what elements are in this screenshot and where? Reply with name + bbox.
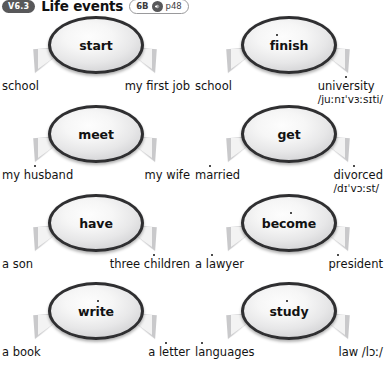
verb-label: meet (78, 127, 114, 142)
stress-dot: a (206, 168, 213, 182)
stress-dot: e (162, 345, 169, 359)
stress-dot: i (96, 304, 100, 319)
collocation-right: my first job (125, 80, 190, 93)
collocation-right-text: my first job (125, 79, 190, 93)
collocation-right: my wife (145, 169, 190, 182)
collocation-right: three children (110, 258, 190, 271)
verb-label: finish (270, 38, 309, 53)
speech-bubble: become (223, 194, 353, 256)
verb-label: start (79, 38, 113, 53)
stress-dot: o (286, 216, 295, 231)
verb-label: have (79, 216, 113, 231)
bubble-body: have (48, 194, 144, 252)
event-group: write a book a letter (0, 280, 192, 367)
collocation-left: languages (195, 346, 255, 359)
bubble-body: write (48, 282, 144, 340)
event-group: meet my husband my wife (0, 103, 192, 191)
bubble-body: become (241, 194, 337, 252)
collocation-labels: languages law /lɔː/ (193, 346, 385, 359)
event-group: become a lawyer president (193, 192, 385, 280)
speech-bubble: get (223, 105, 353, 167)
collocation-labels: school my first job (0, 80, 192, 93)
verb-label: get (277, 127, 300, 142)
collocation-right: law /lɔː/ (339, 346, 383, 359)
collocation-left: a book (2, 346, 41, 359)
stress-dot: h (150, 257, 157, 271)
speech-bubble: write (30, 282, 160, 344)
reference-page: p48 (166, 1, 182, 11)
event-group: get married divorced /dɪˈvɔːst/ (193, 103, 385, 191)
stress-dot: i (275, 38, 279, 53)
stress-dot: a (198, 345, 205, 359)
stress-dot: r (336, 257, 341, 271)
verb-label: write (78, 304, 114, 319)
collocation-right: university /juːnɪˈvɜːsɪti/ (318, 80, 383, 105)
stress-dot: e (342, 79, 349, 93)
collocation-left: school (2, 80, 39, 93)
collocation-left: my husband (2, 169, 73, 182)
collocation-right-text: a letter (148, 345, 190, 359)
collocation-right-text: law /lɔː/ (339, 345, 383, 359)
collocation-labels: school university /juːnɪˈvɜːsɪti/ (193, 80, 385, 105)
bubble-body: finish (241, 16, 337, 74)
life-events-grid: start school my first job finish school … (0, 14, 385, 367)
event-group: study languages law /lɔː/ (193, 280, 385, 367)
reference-level: 6B (136, 1, 148, 11)
collocation-right-text: my wife (145, 168, 190, 182)
collocation-right: president (329, 258, 383, 271)
collocation-labels: my husband my wife (0, 169, 192, 182)
unit-badge: V6.3 (2, 0, 35, 13)
collocation-right-text: university (318, 79, 375, 93)
speech-bubble: have (30, 194, 160, 256)
speech-bubble: meet (30, 105, 160, 167)
stress-dot: u (31, 168, 38, 182)
collocation-left: married (195, 169, 240, 182)
verb-label: become (262, 216, 316, 231)
collocation-right-text: divorced (333, 168, 383, 182)
stress-dot: u (283, 304, 292, 319)
collocation-right-text: three children (110, 257, 190, 271)
collocation-left: a lawyer (195, 258, 244, 271)
collocation-labels: a book a letter (0, 346, 192, 359)
collocation-right: a letter (148, 346, 190, 359)
event-group: have a son three children (0, 192, 192, 280)
page-title: Life events (41, 0, 123, 14)
event-group: start school my first job (0, 14, 192, 102)
collocation-right: divorced /dɪˈvɔːst/ (333, 169, 383, 194)
collocation-left: school (195, 80, 232, 93)
collocation-right-text: president (329, 257, 383, 271)
collocation-labels: a lawyer president (193, 258, 385, 271)
speaker-icon[interactable] (152, 1, 163, 12)
verb-label: study (270, 304, 309, 319)
reference-pill[interactable]: 6B p48 (129, 0, 189, 14)
stress-dot: a (209, 257, 216, 271)
page-header: V6.3 Life events 6B p48 (0, 0, 385, 15)
bubble-body: meet (48, 105, 144, 163)
speech-bubble: study (223, 282, 353, 344)
speech-bubble: start (30, 16, 160, 78)
collocation-labels: a son three children (0, 258, 192, 271)
stress-dot: o (351, 168, 358, 182)
collocation-left: a son (2, 258, 33, 271)
bubble-body: get (241, 105, 337, 163)
bubble-body: study (241, 282, 337, 340)
collocation-labels: married divorced /dɪˈvɔːst/ (193, 169, 385, 194)
bubble-body: start (48, 16, 144, 74)
speech-bubble: finish (223, 16, 353, 78)
event-group: finish school university /juːnɪˈvɜːsɪti/ (193, 14, 385, 102)
